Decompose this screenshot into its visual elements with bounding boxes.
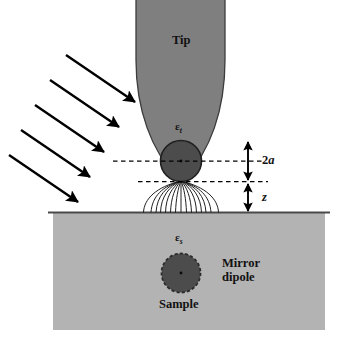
incident-light-arrows: [9, 55, 135, 202]
epsilon-tip-subscript: t: [180, 126, 182, 135]
sample-label: Sample: [159, 297, 199, 311]
dimension-z-label: z: [262, 190, 267, 204]
mirror-dipole-center-dot: [180, 272, 183, 275]
mirror-dipole-label-line2: dipole: [222, 270, 260, 284]
incident-arrow-1: [66, 55, 135, 102]
dipole-model-figure: Tip εt 2a z εs Mirrordipole Sample: [0, 0, 340, 349]
dimension-z-italic: z: [262, 190, 267, 204]
mirror-dipole-sphere: [162, 254, 201, 293]
tip-label: Tip: [172, 33, 191, 47]
dimension-2a-label: 2a: [262, 153, 275, 167]
epsilon-sample-subscript: s: [180, 237, 183, 246]
mirror-dipole-label: Mirrordipole: [222, 256, 260, 284]
epsilon-sample-label: εs: [175, 231, 183, 247]
epsilon-tip-label: εt: [175, 120, 182, 136]
incident-arrow-3: [35, 105, 104, 152]
mirror-dipole-label-line1: Mirror: [222, 256, 260, 270]
incident-arrow-2: [50, 80, 119, 127]
dimension-2a-italic: a: [268, 153, 274, 167]
field-lines: [144, 181, 219, 213]
